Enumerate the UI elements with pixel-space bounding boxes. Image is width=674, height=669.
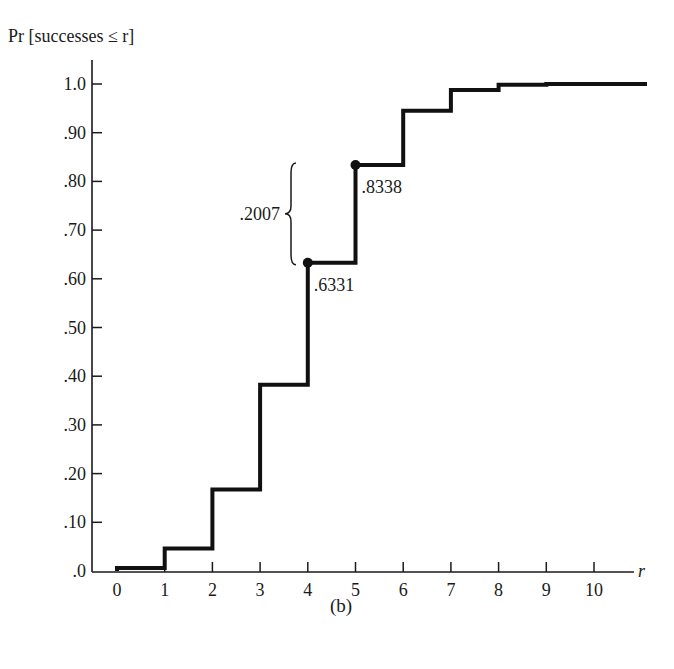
- point-marker-r4: [303, 258, 313, 268]
- y-ticks: .0.10.20.30.40.50.60.70.80.901.0: [64, 74, 103, 581]
- y-tick-label: .30: [64, 415, 87, 435]
- point-marker-r5: [351, 160, 361, 170]
- x-tick-label: 8: [494, 580, 503, 600]
- x-tick-label: 2: [208, 580, 217, 600]
- x-tick-label: 6: [399, 580, 408, 600]
- x-tick-label: 0: [113, 580, 122, 600]
- point-label-r4: .6331: [314, 275, 355, 295]
- x-tick-label: 4: [303, 580, 312, 600]
- panel-label: (b): [330, 595, 352, 617]
- y-tick-label: .0: [73, 561, 87, 581]
- y-tick-label: 1.0: [64, 74, 87, 94]
- y-tick-label: .20: [64, 464, 87, 484]
- y-tick-label: .40: [64, 366, 87, 386]
- y-axis-label: Pr [successes ≤ r]: [8, 26, 134, 46]
- y-tick-label: .10: [64, 512, 87, 532]
- y-tick-label: .60: [64, 269, 87, 289]
- point-label-r5: .8338: [362, 177, 403, 197]
- x-axis-label: r: [638, 561, 646, 581]
- cdf-step-line: [117, 84, 647, 571]
- x-tick-label: 10: [585, 580, 603, 600]
- y-tick-label: .70: [64, 220, 87, 240]
- x-tick-label: 7: [446, 580, 455, 600]
- cdf-step-chart: Pr [successes ≤ r] r .0.10.20.30.40.50.6…: [0, 0, 674, 669]
- brace-annotation: [285, 163, 296, 265]
- y-tick-label: .80: [64, 171, 87, 191]
- y-tick-label: .50: [64, 318, 87, 338]
- x-tick-label: 3: [256, 580, 265, 600]
- brace-label: .2007: [240, 204, 281, 224]
- x-ticks: 012345678910: [113, 562, 604, 600]
- x-tick-label: 9: [542, 580, 551, 600]
- x-tick-label: 1: [160, 580, 169, 600]
- x-tick-label: 5: [351, 580, 360, 600]
- y-tick-label: .90: [64, 123, 87, 143]
